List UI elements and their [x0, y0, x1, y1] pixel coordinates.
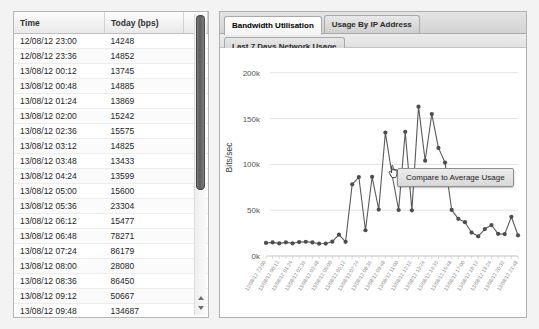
cell-today-bps: 15477: [105, 214, 184, 229]
data-point-marker[interactable]: [324, 241, 328, 245]
plot-area: 0k50k100k150k200kBits/sec12/08/12 23:001…: [220, 48, 526, 317]
data-point-marker[interactable]: [476, 234, 480, 238]
table-row[interactable]: 13/08/12 03:4813433: [14, 154, 208, 169]
cell-today-bps: 15600: [105, 184, 184, 199]
data-point-marker[interactable]: [290, 241, 294, 245]
data-point-marker[interactable]: [297, 240, 301, 244]
data-point-marker[interactable]: [304, 240, 308, 244]
table-row[interactable]: 12/08/12 23:0014248: [14, 34, 208, 49]
table-row[interactable]: 13/08/12 02:0015242: [14, 109, 208, 124]
scroll-up-icon[interactable]: [198, 296, 204, 300]
data-point-marker[interactable]: [416, 105, 420, 109]
cell-time: 13/08/12 04:24: [14, 169, 105, 184]
table-row[interactable]: 12/08/12 23:3614852: [14, 49, 208, 64]
cell-today-bps: 15242: [105, 109, 184, 124]
column-header-today-bps[interactable]: Today (bps): [105, 12, 184, 34]
cell-time: 13/08/12 07:24: [14, 244, 105, 259]
data-point-marker[interactable]: [343, 240, 347, 244]
data-point-marker[interactable]: [489, 223, 493, 227]
cell-time: 13/08/12 03:12: [14, 139, 105, 154]
table-row[interactable]: 13/08/12 06:4878271: [14, 229, 208, 244]
cell-time: 13/08/12 00:12: [14, 64, 105, 79]
data-point-marker[interactable]: [383, 130, 387, 134]
cell-time: 13/08/12 03:48: [14, 154, 105, 169]
data-point-marker[interactable]: [330, 240, 334, 244]
data-point-marker[interactable]: [469, 230, 473, 234]
table-row[interactable]: 13/08/12 00:1213745: [14, 64, 208, 79]
cell-time: 13/08/12 09:48: [14, 304, 105, 319]
data-point-marker[interactable]: [284, 240, 288, 244]
data-point-marker[interactable]: [516, 233, 520, 237]
table-row[interactable]: 13/08/12 01:2413869: [14, 94, 208, 109]
data-point-marker[interactable]: [423, 159, 427, 163]
cell-today-bps: 15575: [105, 124, 184, 139]
cell-today-bps: 50667: [105, 289, 184, 304]
data-point-marker[interactable]: [403, 130, 407, 134]
bandwidth-table: Time Today (bps) 12/08/12 23:001424812/0…: [14, 12, 208, 318]
scroll-down-icon[interactable]: [198, 306, 204, 310]
app-window: Time Today (bps) 12/08/12 23:001424812/0…: [0, 0, 539, 329]
data-point-marker[interactable]: [350, 182, 354, 186]
table-row[interactable]: 13/08/12 06:1215477: [14, 214, 208, 229]
data-point-marker[interactable]: [503, 232, 507, 236]
table-row[interactable]: 13/08/12 05:3623304: [14, 199, 208, 214]
data-point-marker[interactable]: [277, 241, 281, 245]
y-axis-tick-label: 0k: [252, 252, 261, 261]
table-row[interactable]: 13/08/12 03:1214825: [14, 139, 208, 154]
data-point-marker[interactable]: [370, 175, 374, 179]
cell-today-bps: 14248: [105, 34, 184, 49]
data-point-marker[interactable]: [377, 207, 381, 211]
tab-bandwidth-utilisation[interactable]: Bandwidth Utilisation: [224, 16, 322, 35]
tab-usage-by-ip-address[interactable]: Usage By IP Address: [324, 15, 420, 33]
cell-today-bps: 86179: [105, 244, 184, 259]
data-point-marker[interactable]: [337, 233, 341, 237]
data-point-marker[interactable]: [463, 220, 467, 224]
data-point-marker[interactable]: [436, 146, 440, 150]
column-header-time[interactable]: Time: [14, 12, 105, 34]
table-row[interactable]: 13/08/12 08:3686450: [14, 274, 208, 289]
cell-today-bps: 13869: [105, 94, 184, 109]
scrollbar-arrows: [195, 293, 206, 315]
table-row[interactable]: 13/08/12 08:0028080: [14, 259, 208, 274]
data-point-marker[interactable]: [430, 112, 434, 116]
data-point-marker[interactable]: [397, 208, 401, 212]
data-point-marker[interactable]: [483, 227, 487, 231]
table-row[interactable]: 13/08/12 00:4814885: [14, 79, 208, 94]
cell-time: 13/08/12 02:36: [14, 124, 105, 139]
table-row[interactable]: 13/08/12 09:48134687: [14, 304, 208, 319]
scrollbar-thumb[interactable]: [196, 15, 205, 190]
cell-time: 13/08/12 06:48: [14, 229, 105, 244]
table-scrollbar[interactable]: [194, 14, 206, 315]
data-point-marker[interactable]: [357, 175, 361, 179]
data-point-marker[interactable]: [443, 160, 447, 164]
data-point-marker[interactable]: [363, 228, 367, 232]
data-point-marker[interactable]: [496, 232, 500, 236]
y-axis-tick-label: 100k: [243, 160, 261, 169]
cell-time: 13/08/12 01:24: [14, 94, 105, 109]
cell-today-bps: 13745: [105, 64, 184, 79]
cell-time: 13/08/12 08:00: [14, 259, 105, 274]
cell-time: 12/08/12 23:00: [14, 34, 105, 49]
cell-time: 13/08/12 02:00: [14, 109, 105, 124]
cell-today-bps: 14852: [105, 49, 184, 64]
data-point-marker[interactable]: [264, 241, 268, 245]
cell-time: 13/08/12 09:12: [14, 289, 105, 304]
data-point-marker[interactable]: [456, 217, 460, 221]
table-row[interactable]: 13/08/12 07:2486179: [14, 244, 208, 259]
data-point-marker[interactable]: [509, 215, 513, 219]
data-point-marker[interactable]: [317, 242, 321, 246]
table-row[interactable]: 13/08/12 04:2413599: [14, 169, 208, 184]
y-axis-tick-label: 50k: [247, 206, 261, 215]
data-point-marker[interactable]: [410, 208, 414, 212]
table-row[interactable]: 13/08/12 02:3615575: [14, 124, 208, 139]
table-row[interactable]: 13/08/12 05:0015600: [14, 184, 208, 199]
table-row[interactable]: 13/08/12 09:1250667: [14, 289, 208, 304]
tooltip-compare-to-average-usage[interactable]: Compare to Average Usage: [397, 168, 514, 187]
data-point-marker[interactable]: [310, 240, 314, 244]
cell-time: 13/08/12 05:36: [14, 199, 105, 214]
data-point-marker[interactable]: [271, 240, 275, 244]
chart-tab-panel: Bandwidth UtilisationUsage By IP Address…: [219, 11, 527, 318]
cell-today-bps: 78271: [105, 229, 184, 244]
data-point-marker[interactable]: [450, 208, 454, 212]
tab-strip: Bandwidth UtilisationUsage By IP Address…: [220, 12, 526, 34]
